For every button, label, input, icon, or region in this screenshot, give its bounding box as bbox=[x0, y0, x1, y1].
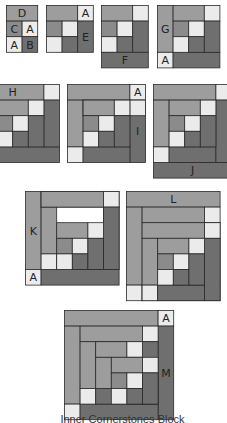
block-step-10: AM bbox=[64, 310, 174, 420]
fabric-piece bbox=[204, 21, 220, 52]
fabric-piece bbox=[154, 147, 170, 163]
block-step-10-svg: AM bbox=[64, 310, 174, 420]
piece-label: A bbox=[11, 39, 19, 52]
fabric-piece bbox=[57, 254, 73, 270]
fabric-piece bbox=[189, 37, 205, 53]
fabric-piece bbox=[83, 116, 99, 132]
piece-label: A bbox=[26, 23, 34, 36]
fabric-piece bbox=[216, 100, 227, 162]
piece-label: M bbox=[161, 367, 171, 380]
fabric-piece bbox=[205, 238, 221, 300]
fabric-piece bbox=[173, 37, 189, 53]
block-step-9-svg: L bbox=[126, 191, 221, 301]
piece-label: G bbox=[161, 23, 170, 36]
fabric-piece bbox=[83, 131, 99, 147]
fabric-piece bbox=[80, 326, 142, 342]
fabric-piece bbox=[173, 52, 220, 68]
fabric-piece bbox=[41, 207, 57, 254]
fabric-piece bbox=[57, 223, 88, 239]
block-step-2: AE bbox=[46, 5, 94, 53]
fabric-piece bbox=[0, 85, 44, 101]
fabric-piece bbox=[127, 207, 143, 285]
piece-label: A bbox=[162, 54, 170, 67]
fabric-piece bbox=[102, 21, 118, 37]
fabric-piece bbox=[47, 6, 78, 22]
block-step-7-svg: J bbox=[153, 84, 227, 179]
fabric-piece bbox=[44, 85, 60, 101]
fabric-piece bbox=[142, 285, 158, 301]
piece-label: A bbox=[134, 86, 142, 99]
fabric-piece bbox=[104, 207, 120, 269]
fabric-piece bbox=[99, 131, 115, 147]
block-step-7: J bbox=[153, 84, 227, 179]
block-step-1: DCAAB bbox=[6, 5, 38, 53]
fabric-piece bbox=[62, 37, 78, 53]
block-step-4-svg: GA bbox=[157, 5, 220, 68]
fabric-piece bbox=[154, 85, 216, 101]
fabric-piece bbox=[88, 238, 104, 269]
fabric-piece bbox=[102, 6, 133, 22]
fabric-piece bbox=[114, 100, 130, 116]
piece-label: I bbox=[136, 125, 139, 138]
block-step-9: L bbox=[126, 191, 221, 301]
block-step-4: GA bbox=[157, 5, 220, 68]
fabric-piece bbox=[158, 270, 174, 286]
fabric-piece bbox=[111, 373, 127, 389]
fabric-piece bbox=[68, 147, 84, 163]
fabric-piece bbox=[133, 6, 149, 22]
piece-label: A bbox=[30, 271, 38, 284]
fabric-piece bbox=[127, 373, 143, 389]
block-step-3: F bbox=[101, 5, 149, 68]
fabric-piece bbox=[111, 357, 142, 373]
block-step-5: H bbox=[0, 84, 60, 163]
fabric-piece bbox=[142, 238, 158, 285]
fabric-piece bbox=[13, 131, 29, 147]
fabric-piece bbox=[80, 389, 96, 405]
fabric-piece bbox=[104, 192, 120, 208]
piece-label: J bbox=[190, 164, 194, 177]
fabric-piece bbox=[65, 326, 81, 404]
fabric-piece bbox=[88, 223, 104, 239]
fabric-piece bbox=[173, 270, 189, 286]
fabric-piece bbox=[0, 116, 13, 132]
fabric-piece bbox=[28, 116, 44, 147]
fabric-piece bbox=[83, 100, 114, 116]
piece-label: H bbox=[9, 86, 17, 99]
piece-label: C bbox=[10, 23, 18, 36]
fabric-piece bbox=[133, 21, 149, 52]
diagram-caption: Inner Cornerstones Block bbox=[0, 413, 227, 423]
fabric-piece bbox=[189, 238, 205, 254]
fabric-piece bbox=[44, 100, 60, 147]
block-step-8: KA bbox=[25, 191, 120, 286]
block-step-8-svg: KA bbox=[25, 191, 120, 286]
fabric-piece bbox=[154, 100, 170, 147]
fabric-piece bbox=[189, 21, 205, 37]
fabric-piece bbox=[72, 254, 88, 270]
fabric-piece bbox=[127, 342, 143, 358]
fabric-piece bbox=[28, 100, 44, 116]
piece-label: A bbox=[162, 312, 170, 325]
fabric-piece bbox=[169, 131, 185, 147]
piece-label: K bbox=[30, 225, 38, 238]
fabric-piece bbox=[158, 285, 205, 301]
piece-label: B bbox=[26, 39, 34, 52]
fabric-piece bbox=[102, 37, 118, 53]
fabric-piece bbox=[13, 116, 29, 132]
fabric-piece bbox=[205, 223, 221, 239]
fabric-piece bbox=[65, 311, 159, 327]
fabric-piece bbox=[205, 207, 221, 223]
fabric-piece bbox=[169, 147, 216, 163]
fabric-piece bbox=[200, 100, 216, 116]
fabric-piece bbox=[41, 254, 57, 270]
fabric-piece bbox=[185, 116, 201, 132]
fabric-piece bbox=[185, 131, 201, 147]
fabric-piece bbox=[173, 254, 189, 270]
fabric-piece bbox=[200, 116, 216, 147]
fabric-piece bbox=[68, 85, 130, 101]
fabric-piece bbox=[0, 131, 13, 147]
block-step-2-svg: AE bbox=[46, 5, 94, 53]
piece-label: L bbox=[170, 193, 177, 206]
fabric-piece bbox=[169, 116, 185, 132]
block-step-1-svg: DCAAB bbox=[6, 5, 38, 53]
fabric-piece bbox=[169, 100, 200, 116]
